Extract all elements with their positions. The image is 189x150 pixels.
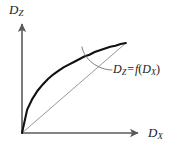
x-axis-label: DX (148, 126, 163, 141)
function-equation-label: DZ=f(DX) (113, 63, 160, 77)
equation-close-paren: ) (156, 62, 160, 76)
y-axis-label-variable: D (9, 2, 18, 17)
x-axis-label-variable: D (148, 125, 157, 140)
equation-arg-variable: D (142, 62, 151, 76)
x-axis-label-subscript: X (157, 131, 162, 141)
chord-line (22, 43, 126, 133)
equation-operator: = (126, 62, 135, 76)
equation-lhs-variable: D (113, 62, 122, 76)
figure-container: DZ DX DZ=f(DX) (0, 0, 189, 150)
y-axis-label-subscript: Z (18, 8, 23, 18)
y-axis-label: DZ (9, 3, 23, 18)
